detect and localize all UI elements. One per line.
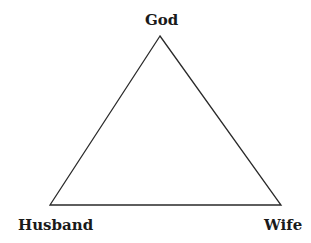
triangle-shape bbox=[0, 0, 311, 243]
triangle-outline bbox=[50, 36, 281, 205]
vertex-label-husband: Husband bbox=[18, 218, 93, 233]
vertex-label-god: God bbox=[145, 13, 178, 28]
triangle-diagram: God Husband Wife bbox=[0, 0, 311, 243]
vertex-label-wife: Wife bbox=[264, 218, 302, 233]
